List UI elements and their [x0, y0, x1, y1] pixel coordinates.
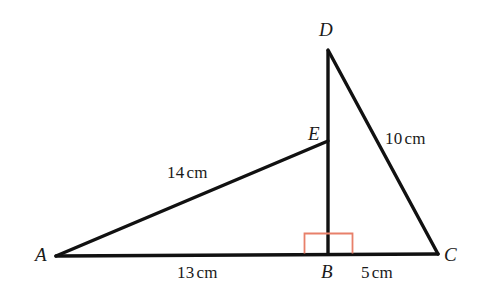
geometry-figure-svg	[0, 0, 478, 299]
measure-unit-AB: cm	[196, 263, 217, 282]
measure-value-AE: 14	[167, 163, 184, 182]
vertex-label-D: D	[319, 20, 333, 39]
measure-label-DC: 10cm	[385, 130, 426, 147]
measure-label-AE: 14cm	[167, 164, 208, 181]
vertex-label-C: C	[444, 245, 457, 264]
measure-value-AB: 13	[177, 263, 194, 282]
vertex-label-E: E	[308, 124, 320, 143]
measure-label-BC: 5cm	[361, 264, 393, 281]
vertex-label-A: A	[35, 245, 47, 264]
measure-unit-AE: cm	[186, 163, 207, 182]
measure-value-DC: 10	[385, 129, 402, 148]
measure-unit-DC: cm	[404, 129, 425, 148]
measure-value-BC: 5	[361, 263, 370, 282]
geometry-figure-canvas: A B C D E 14cm 10cm 13cm 5cm	[0, 0, 478, 299]
segment-AE	[56, 141, 328, 256]
measure-label-AB: 13cm	[177, 264, 218, 281]
segment-DC	[328, 50, 438, 254]
measure-unit-BC: cm	[372, 263, 393, 282]
segment-AC	[56, 254, 438, 256]
vertex-label-B: B	[321, 262, 333, 281]
